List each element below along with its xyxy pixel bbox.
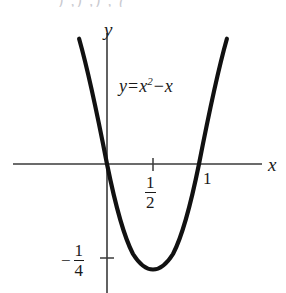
graph-canvas <box>0 0 286 293</box>
y-axis-label: y <box>104 20 112 39</box>
fraction-denominator: 4 <box>74 262 85 279</box>
fraction-numerator: 1 <box>145 174 156 191</box>
equation-minus: − <box>153 76 165 96</box>
fraction-denominator: 2 <box>145 194 156 211</box>
x-axis-label: x <box>268 155 276 174</box>
negative-sign: − <box>61 252 74 269</box>
fraction-numerator: 1 <box>74 242 85 259</box>
x-tick-label-half: 1 2 <box>145 174 156 212</box>
equation-label: y=x2−x <box>119 76 173 95</box>
equation-base: x <box>139 76 147 96</box>
y-tick-label-neg-quarter: − 1 4 <box>61 242 84 280</box>
x-tick-label-one: 1 <box>203 170 212 187</box>
parabola-figure: ) ,) ,) , ( y x y=x2−x 1 2 1 − 1 4 <box>0 0 286 293</box>
fraction-one-quarter: 1 4 <box>74 242 85 280</box>
equation-exponent: 2 <box>147 75 153 87</box>
equation-lhs: y <box>119 76 127 96</box>
fraction-one-half: 1 2 <box>145 174 156 212</box>
equation-equals: = <box>127 76 139 96</box>
equation-term: x <box>165 76 173 96</box>
parabola-curve <box>79 39 227 270</box>
